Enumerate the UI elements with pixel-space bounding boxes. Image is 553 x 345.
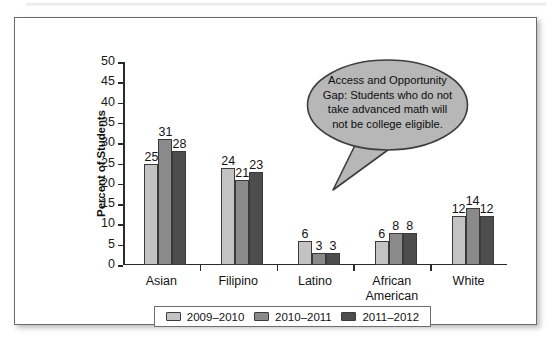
- bar: 28: [172, 151, 186, 265]
- bar: 8: [389, 233, 403, 265]
- bar-value-label: 12: [480, 203, 494, 216]
- y-tick-mark: [118, 265, 123, 267]
- chart-legend: 2009–2010 2010–2011 2011–2012: [154, 306, 431, 327]
- y-tick-label: 10: [101, 216, 115, 230]
- y-tick-mark: [118, 82, 123, 84]
- category-label: Filipino: [200, 274, 277, 289]
- group-separator-tick: [430, 265, 432, 271]
- group-separator-tick: [200, 265, 202, 271]
- bar: 23: [249, 172, 263, 265]
- y-tick-label: 5: [108, 237, 115, 251]
- y-tick-label: 30: [101, 135, 115, 149]
- bar-value-label: 6: [302, 228, 309, 241]
- y-tick-label: 20: [101, 176, 115, 190]
- bar-value-label: 3: [316, 240, 323, 253]
- bar-value-label: 31: [158, 126, 172, 139]
- group-separator-tick: [277, 265, 279, 271]
- y-tick-mark: [118, 204, 123, 206]
- category-label: White: [430, 274, 507, 289]
- bar: 6: [375, 241, 389, 265]
- bar: 8: [403, 233, 417, 265]
- y-tick-label: 15: [101, 196, 115, 210]
- callout-text: Access and Opportunity Gap: Students who…: [320, 73, 455, 131]
- y-tick-label: 50: [101, 54, 115, 68]
- y-tick-mark: [118, 184, 123, 186]
- y-tick-mark: [118, 224, 123, 226]
- bar-value-label: 24: [221, 155, 235, 168]
- bar-value-label: 28: [172, 138, 186, 151]
- y-tick-mark: [118, 164, 123, 166]
- category-label: Asian: [123, 274, 200, 289]
- y-tick-mark: [118, 103, 123, 105]
- category-label: Latino: [277, 274, 354, 289]
- bar-value-label: 8: [406, 220, 413, 233]
- bar-value-label: 12: [452, 203, 466, 216]
- bar: 12: [480, 216, 494, 265]
- y-tick-mark: [118, 245, 123, 247]
- bar-value-label: 25: [144, 151, 158, 164]
- y-tick-label: 0: [108, 257, 115, 271]
- y-axis-line: [123, 62, 125, 265]
- y-tick-mark: [118, 143, 123, 145]
- legend-swatch-2011-2012: [341, 312, 356, 321]
- bar-value-label: 21: [235, 167, 249, 180]
- page-top-rule: [26, 3, 546, 6]
- bar: 3: [326, 253, 340, 265]
- legend-swatch-2010-2011: [254, 312, 269, 321]
- figure-frame: Percent of Students 50454035302520151050…: [14, 17, 537, 325]
- y-tick-label: 45: [101, 74, 115, 88]
- bar: 21: [235, 180, 249, 265]
- bar: 12: [452, 216, 466, 265]
- legend-label: 2010–2011: [275, 311, 332, 323]
- bar-value-label: 6: [378, 228, 385, 241]
- bar: 25: [144, 164, 158, 266]
- legend-label: 2011–2012: [362, 311, 419, 323]
- bar-value-label: 23: [249, 159, 263, 172]
- group-separator-tick: [353, 265, 355, 271]
- legend-item[interactable]: 2009–2010: [166, 311, 245, 323]
- y-tick-label: 25: [101, 156, 115, 170]
- access-opportunity-gap-callout: Access and Opportunity Gap: Students who…: [306, 59, 469, 152]
- legend-item[interactable]: 2011–2012: [341, 311, 419, 323]
- legend-label: 2009–2010: [187, 311, 245, 323]
- bar: 3: [312, 253, 326, 265]
- legend-item[interactable]: 2010–2011: [254, 311, 332, 323]
- bar: 6: [298, 241, 312, 265]
- category-label: African American: [353, 274, 430, 304]
- y-tick-mark: [118, 123, 123, 125]
- bar-value-label: 8: [392, 220, 399, 233]
- bar-value-label: 3: [330, 240, 337, 253]
- bar: 24: [221, 168, 235, 265]
- y-tick-label: 35: [101, 115, 115, 129]
- bar: 31: [158, 139, 172, 265]
- y-tick-mark: [118, 62, 123, 64]
- y-tick-label: 40: [101, 95, 115, 109]
- legend-swatch-2009-2010: [166, 312, 181, 321]
- bar: 14: [466, 208, 480, 265]
- bar-value-label: 14: [466, 195, 480, 208]
